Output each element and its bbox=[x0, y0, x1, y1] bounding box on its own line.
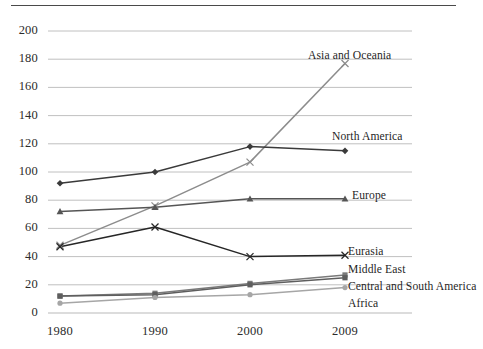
series-line bbox=[60, 63, 345, 245]
series-point-marker bbox=[247, 282, 252, 287]
series-point-marker bbox=[57, 293, 62, 298]
series-lines bbox=[60, 63, 345, 303]
y-axis-tick-label: 180 bbox=[2, 52, 38, 65]
series-point-marker bbox=[342, 148, 349, 155]
series-label: North America bbox=[332, 131, 403, 143]
series-line bbox=[60, 275, 345, 296]
series-markers bbox=[57, 60, 349, 306]
series-label: Central and South America bbox=[348, 281, 476, 293]
series-point-marker bbox=[57, 301, 62, 306]
x-axis-tick-label: 1990 bbox=[125, 325, 185, 338]
y-axis-tick-label: 160 bbox=[2, 80, 38, 93]
series-line bbox=[60, 227, 345, 257]
y-axis-tick-label: 20 bbox=[2, 278, 38, 291]
y-axis-tick-label: 100 bbox=[2, 165, 38, 178]
series-line bbox=[60, 199, 345, 212]
x-axis-tick-label: 1980 bbox=[30, 325, 90, 338]
series-point-marker bbox=[152, 169, 159, 176]
x-axis-tick-label: 2000 bbox=[220, 325, 280, 338]
series-point-marker bbox=[247, 292, 252, 297]
series-point-marker bbox=[57, 242, 64, 249]
x-axis-tick-label: 2009 bbox=[315, 325, 375, 338]
y-axis-tick-label: 120 bbox=[2, 137, 38, 150]
y-axis-tick-label: 140 bbox=[2, 109, 38, 122]
y-axis-tick-label: 40 bbox=[2, 250, 38, 263]
y-axis-tick-label: 0 bbox=[2, 306, 38, 319]
series-label: Eurasia bbox=[348, 246, 383, 258]
series-point-marker bbox=[342, 285, 347, 290]
series-label: Africa bbox=[348, 298, 378, 310]
chart-figure: 020406080100120140160180200 198019902000… bbox=[0, 0, 483, 349]
line-chart-plot: 020406080100120140160180200 198019902000… bbox=[0, 0, 483, 349]
series-point-marker bbox=[342, 275, 347, 280]
series-point-marker bbox=[247, 159, 254, 166]
series-point-marker bbox=[247, 143, 254, 150]
y-axis-tick-label: 200 bbox=[2, 24, 38, 37]
series-label: Asia and Oceania bbox=[308, 50, 391, 62]
series-line bbox=[60, 278, 345, 296]
series-point-marker bbox=[57, 180, 64, 187]
series-line bbox=[60, 147, 345, 184]
y-axis-tick-label: 60 bbox=[2, 221, 38, 234]
chart-canvas bbox=[0, 0, 483, 349]
y-axis-tick-label: 80 bbox=[2, 193, 38, 206]
series-label: Middle East bbox=[348, 264, 405, 276]
series-label: Europe bbox=[352, 190, 386, 202]
series-point-marker bbox=[152, 295, 157, 300]
